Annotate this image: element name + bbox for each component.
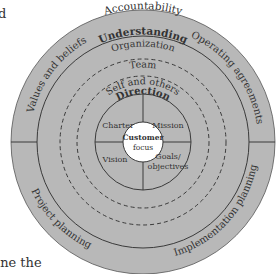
label-team: Team bbox=[129, 59, 157, 71]
label-objectives: objectives bbox=[148, 162, 189, 171]
label-focus: focus bbox=[133, 143, 153, 152]
label-goals: Goals/ bbox=[155, 152, 181, 161]
label-vision: Vision bbox=[102, 155, 128, 164]
label-charter: Charter bbox=[102, 121, 134, 130]
label-customer: Customer bbox=[123, 133, 165, 142]
framework-diagram: Accountability Values and beliefs Operat… bbox=[0, 0, 279, 274]
label-mission: Mission bbox=[152, 121, 184, 130]
